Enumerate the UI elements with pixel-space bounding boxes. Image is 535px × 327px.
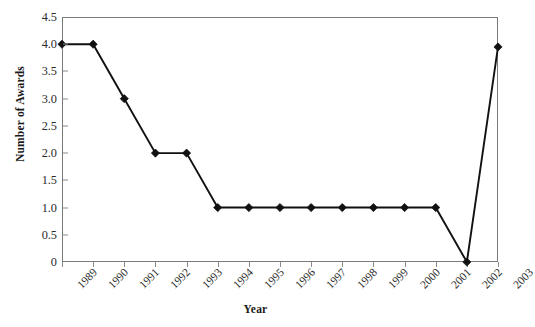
x-tick-label: 2003 [511,266,535,291]
y-tick-label: 3.5 [24,64,57,79]
x-tick-label: 1997 [324,266,349,291]
x-tick-mark [405,262,406,267]
y-tick-label: 2.5 [24,118,57,133]
x-tick-label: 1994 [230,266,255,291]
x-tick-mark [124,262,125,267]
x-tick-label: 1998 [355,266,380,291]
x-tick-label: 1996 [293,266,318,291]
y-tick-mark [63,125,68,126]
x-tick-mark [436,262,437,267]
y-tick-mark [63,98,68,99]
y-tick-mark [63,207,68,208]
x-tick-label: 1992 [168,266,193,291]
x-tick-label: 1999 [386,266,411,291]
y-tick-label: 0.5 [24,227,57,242]
x-tick-mark [187,262,188,267]
x-tick-mark [155,262,156,267]
y-tick-mark [63,180,68,181]
x-tick-mark [62,262,63,267]
x-tick-label: 1989 [75,266,100,291]
x-tick-mark [93,262,94,267]
x-tick-label: 1990 [106,266,131,291]
y-tick-mark [63,44,68,45]
y-tick-label: 1.5 [24,173,57,188]
x-tick-mark [467,262,468,267]
y-tick-label: 0 [24,255,57,270]
x-tick-mark [373,262,374,267]
plot-area [62,17,498,262]
y-tick-label: 2.0 [24,146,57,161]
x-tick-mark [249,262,250,267]
y-axis-title: Number of Awards [14,34,26,194]
y-axis-tick-labels: 4.54.03.53.02.52.01.51.00.50 [0,0,57,327]
x-tick-label: 2001 [448,266,473,291]
x-tick-label: 1991 [137,266,162,291]
x-tick-mark [218,262,219,267]
x-tick-mark [280,262,281,267]
y-tick-label: 3.0 [24,91,57,106]
x-tick-label: 1995 [262,266,287,291]
x-tick-label: 2002 [480,266,505,291]
x-tick-label: 2000 [417,266,442,291]
y-tick-mark [63,153,68,154]
x-tick-mark [498,262,499,267]
y-tick-label: 1.0 [24,200,57,215]
y-tick-mark [63,71,68,72]
x-axis-title: Year [0,303,511,315]
x-tick-label: 1993 [199,266,224,291]
x-tick-mark [342,262,343,267]
y-tick-mark [63,234,68,235]
y-tick-label: 4.0 [24,37,57,52]
x-tick-mark [311,262,312,267]
y-tick-label: 4.5 [24,10,57,25]
